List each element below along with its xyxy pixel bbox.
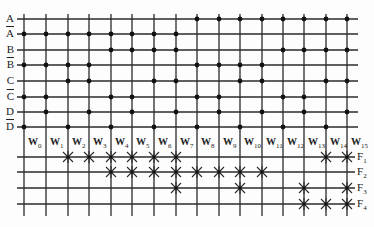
- connection-dot: [345, 79, 350, 84]
- word-label: W7: [180, 137, 194, 150]
- connection-dot: [44, 63, 49, 68]
- input-label: B: [0, 59, 14, 70]
- connection-dot: [44, 32, 49, 37]
- connection-dot: [130, 95, 135, 100]
- word-label: W11: [266, 137, 283, 150]
- connection-dot: [302, 110, 307, 115]
- connection-dot: [109, 32, 114, 37]
- connection-dot: [87, 79, 92, 84]
- connection-dot: [152, 79, 157, 84]
- connection-dot: [217, 95, 222, 100]
- connection-dot: [174, 32, 179, 37]
- word-label: W9: [223, 137, 237, 150]
- connection-dot: [109, 125, 114, 130]
- connection-dot: [324, 79, 329, 84]
- input-label: C: [0, 91, 14, 102]
- connection-dot: [345, 48, 350, 53]
- connection-dot: [345, 17, 350, 22]
- input-label: A: [0, 13, 14, 24]
- word-label: W12: [287, 137, 304, 150]
- connection-dot: [195, 17, 200, 22]
- connection-dot: [260, 110, 265, 115]
- rom-decoder-diagram: AABBCCDDF1F2F3F4W0W1W2W3W4W5W6W7W8W9W10W…: [0, 0, 374, 227]
- connection-dot: [87, 63, 92, 68]
- connection-dot: [260, 79, 265, 84]
- connection-dot: [66, 79, 71, 84]
- connection-dot: [66, 32, 71, 37]
- connection-dot: [109, 95, 114, 100]
- word-label: W10: [244, 137, 261, 150]
- connection-dot: [324, 48, 329, 53]
- connection-dot: [195, 125, 200, 130]
- connection-dot: [152, 48, 157, 53]
- connection-dot: [44, 110, 49, 115]
- input-label: B: [0, 44, 14, 55]
- word-label: W13: [308, 137, 325, 150]
- connection-dot: [238, 79, 243, 84]
- output-label: F2: [357, 166, 367, 180]
- connection-dot: [195, 63, 200, 68]
- connection-dot: [281, 125, 286, 130]
- connection-dot: [44, 95, 49, 100]
- word-label: W1: [50, 137, 64, 150]
- connection-dot: [302, 17, 307, 22]
- word-label: W3: [93, 137, 107, 150]
- connection-dot: [152, 125, 157, 130]
- word-label: W4: [115, 137, 129, 150]
- connection-dot: [22, 95, 27, 100]
- word-label: W8: [201, 137, 215, 150]
- connection-dot: [130, 48, 135, 53]
- word-label: W0: [28, 137, 42, 150]
- output-label: F3: [357, 182, 367, 196]
- connection-dot: [174, 48, 179, 53]
- input-label: D: [0, 121, 14, 132]
- connection-dot: [302, 95, 307, 100]
- connection-dot: [238, 17, 243, 22]
- connection-dot: [217, 63, 222, 68]
- input-label: A: [0, 28, 14, 39]
- connection-dot: [109, 48, 114, 53]
- connection-dot: [130, 110, 135, 115]
- output-label: F1: [357, 151, 367, 165]
- connection-dot: [22, 32, 27, 37]
- word-label: W2: [72, 137, 86, 150]
- connection-dot: [130, 32, 135, 37]
- connection-dot: [324, 125, 329, 130]
- input-label: D: [0, 106, 14, 117]
- connection-dot: [260, 17, 265, 22]
- word-label: W14: [330, 137, 347, 150]
- connection-dot: [87, 110, 92, 115]
- word-label: W15: [351, 137, 368, 150]
- connection-dot: [217, 17, 222, 22]
- connection-dot: [281, 17, 286, 22]
- connection-dot: [174, 110, 179, 115]
- connection-dot: [324, 17, 329, 22]
- connection-dot: [195, 95, 200, 100]
- input-label: C: [0, 75, 14, 86]
- connection-dot: [66, 63, 71, 68]
- connection-dot: [87, 32, 92, 37]
- connection-dot: [22, 63, 27, 68]
- connection-dot: [260, 63, 265, 68]
- connection-dot: [345, 110, 350, 115]
- crosspoint-grid: [0, 0, 374, 227]
- word-label: W5: [136, 137, 150, 150]
- connection-dot: [174, 79, 179, 84]
- connection-dot: [238, 63, 243, 68]
- connection-dot: [66, 125, 71, 130]
- connection-dot: [281, 48, 286, 53]
- connection-dot: [217, 110, 222, 115]
- connection-dot: [152, 32, 157, 37]
- output-label: F4: [357, 198, 367, 212]
- word-label: W6: [158, 137, 172, 150]
- connection-dot: [281, 95, 286, 100]
- connection-dot: [302, 48, 307, 53]
- connection-dot: [238, 125, 243, 130]
- connection-dot: [22, 125, 27, 130]
